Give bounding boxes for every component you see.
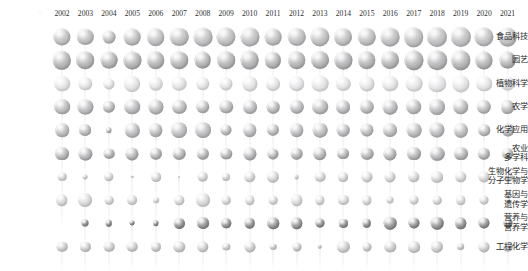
bubble[interactable] [222, 196, 231, 205]
bubble[interactable] [172, 100, 186, 114]
bubble[interactable] [291, 218, 302, 229]
bubble[interactable] [290, 147, 303, 160]
bubble[interactable] [124, 52, 141, 69]
bubble[interactable] [78, 99, 93, 114]
bubble[interactable] [193, 28, 212, 47]
bubble[interactable] [174, 241, 185, 252]
bubble[interactable] [217, 51, 235, 69]
bubble[interactable] [82, 220, 89, 227]
bubble[interactable] [269, 196, 278, 205]
bubble[interactable] [409, 196, 418, 205]
bubble[interactable] [339, 219, 347, 227]
bubble[interactable] [100, 52, 117, 69]
bubble[interactable] [265, 52, 281, 68]
bubble[interactable] [244, 218, 255, 229]
bubble[interactable] [456, 195, 465, 204]
bubble[interactable] [431, 171, 443, 183]
bubble[interactable] [338, 195, 348, 205]
bubble[interactable] [313, 147, 327, 161]
bubble[interactable] [240, 51, 259, 70]
bubble[interactable] [335, 52, 352, 69]
bubble[interactable] [57, 241, 68, 252]
bubble[interactable] [313, 123, 328, 138]
bubble[interactable] [178, 176, 180, 178]
bubble[interactable] [106, 128, 111, 133]
bubble[interactable] [124, 29, 141, 46]
bubble[interactable] [268, 148, 279, 159]
bubble[interactable] [149, 123, 163, 137]
bubble[interactable] [452, 75, 469, 92]
bubble[interactable] [455, 171, 466, 182]
bubble[interactable] [175, 195, 184, 204]
bubble[interactable] [294, 174, 299, 179]
bubble[interactable] [362, 242, 371, 251]
bubble[interactable] [130, 221, 135, 226]
bubble[interactable] [104, 241, 115, 252]
bubble[interactable] [171, 122, 187, 138]
bubble[interactable] [337, 241, 349, 253]
bubble[interactable] [312, 99, 328, 115]
bubble[interactable] [361, 171, 372, 182]
bubble[interactable] [54, 99, 70, 115]
bubble[interactable] [240, 27, 259, 46]
bubble[interactable] [131, 176, 133, 178]
bubble[interactable] [127, 195, 137, 205]
bubble[interactable] [428, 75, 446, 93]
bubble[interactable] [406, 123, 421, 138]
bubble[interactable] [194, 52, 211, 69]
bubble[interactable] [404, 27, 424, 47]
bubble[interactable] [315, 171, 326, 182]
bubble[interactable] [360, 147, 373, 160]
bubble[interactable] [359, 76, 374, 91]
bubble[interactable] [149, 76, 163, 90]
bubble[interactable] [267, 171, 279, 183]
bubble[interactable] [334, 28, 352, 46]
bubble[interactable] [288, 51, 306, 69]
bubble[interactable] [102, 31, 115, 44]
bubble[interactable] [406, 99, 422, 115]
bubble[interactable] [267, 124, 279, 136]
bubble[interactable] [243, 100, 257, 114]
bubble[interactable] [292, 242, 301, 251]
bubble[interactable] [77, 29, 93, 45]
bubble[interactable] [338, 172, 348, 182]
bubble[interactable] [150, 147, 162, 159]
bubble[interactable] [55, 123, 69, 137]
bubble[interactable] [56, 194, 67, 205]
bubble[interactable] [455, 218, 466, 229]
bubble[interactable] [197, 147, 209, 159]
bubble[interactable] [125, 123, 139, 137]
bubble[interactable] [170, 28, 188, 46]
bubble[interactable] [196, 193, 210, 207]
bubble[interactable] [358, 51, 376, 69]
bubble[interactable] [55, 147, 69, 161]
bubble[interactable] [385, 171, 396, 182]
bubble[interactable] [80, 124, 92, 136]
bubble[interactable] [431, 241, 443, 253]
bubble[interactable] [315, 219, 324, 228]
bubble[interactable] [337, 148, 349, 160]
bubble[interactable] [384, 217, 397, 230]
bubble[interactable] [312, 75, 329, 92]
bubble[interactable] [53, 51, 71, 69]
bubble[interactable] [315, 195, 324, 204]
bubble[interactable] [318, 244, 323, 249]
bubble[interactable] [77, 51, 95, 69]
bubble[interactable] [265, 29, 282, 46]
bubble[interactable] [104, 148, 115, 159]
bubble[interactable] [383, 76, 399, 92]
bubble[interactable] [451, 51, 470, 70]
bubble[interactable] [291, 194, 302, 205]
bubble[interactable] [362, 195, 371, 204]
bubble[interactable] [197, 217, 209, 229]
bubble[interactable] [387, 197, 394, 204]
bubble[interactable] [267, 101, 280, 114]
bubble[interactable] [80, 242, 90, 252]
bubble[interactable] [153, 221, 158, 226]
bubble[interactable] [244, 241, 255, 252]
bubble[interactable] [196, 77, 210, 91]
bubble[interactable] [195, 122, 211, 138]
bubble[interactable] [147, 51, 165, 69]
bubble[interactable] [147, 28, 165, 46]
bubble[interactable] [103, 101, 115, 113]
